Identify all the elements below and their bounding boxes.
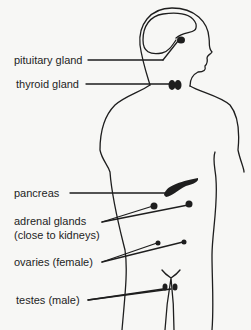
- ovary-right: [182, 240, 187, 245]
- adrenal-gland-left: [151, 203, 158, 210]
- label-thyroid: thyroid gland: [16, 78, 79, 90]
- torso-right: [190, 86, 244, 330]
- label-ovaries: ovaries (female): [14, 256, 93, 268]
- brain-outline: [143, 13, 196, 53]
- pituitary-gland: [177, 37, 185, 44]
- pancreas-shape: [164, 178, 198, 197]
- body-diagram: [0, 0, 251, 330]
- testis-left: [163, 284, 168, 291]
- label-pancreas: pancreas: [14, 187, 59, 199]
- testis-right: [173, 284, 178, 291]
- label-adrenal-note: (close to kidneys): [14, 229, 100, 241]
- label-adrenal: adrenal glands: [14, 215, 86, 227]
- label-testes: testes (male): [16, 294, 80, 306]
- thyroid-lobe-left: [169, 80, 176, 90]
- thyroid-lobe-right: [175, 80, 182, 90]
- ovary-left: [156, 241, 161, 246]
- legs: [162, 270, 180, 330]
- label-pituitary: pituitary gland: [14, 54, 83, 66]
- adrenal-gland-right: [186, 201, 193, 208]
